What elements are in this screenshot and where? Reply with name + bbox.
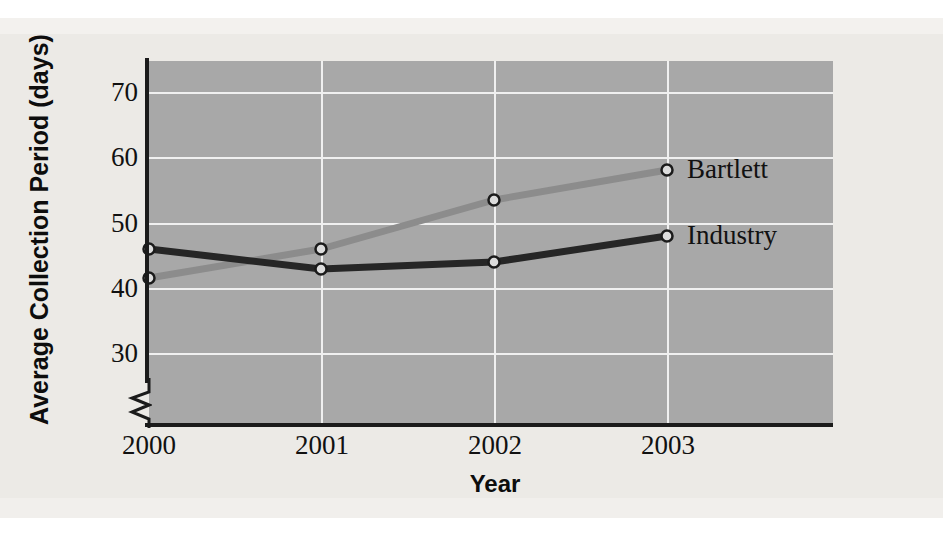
axis-break-icon (126, 378, 152, 428)
x-axis-line (145, 423, 833, 427)
x-tick-label-2000: 2000 (94, 432, 204, 459)
y-tick-label-40: 40 (111, 275, 138, 302)
bartlett-line (149, 170, 667, 278)
y-tick-label-60: 60 (111, 144, 138, 171)
y-tick-label-30: 30 (111, 340, 138, 367)
plot-area: Bartlett Industry (149, 61, 833, 425)
chart-figure: Average Collection Period (days) 70 60 5… (0, 0, 943, 555)
paper-top-edge (0, 18, 943, 34)
paper-bottom-edge (0, 498, 943, 518)
series-label-industry: Industry (687, 222, 777, 249)
series-label-bartlett: Bartlett (687, 156, 768, 183)
y-tick-label-70: 70 (111, 79, 138, 106)
y-axis-line (145, 58, 149, 383)
x-axis-title: Year (440, 472, 550, 496)
y-tick-label-50: 50 (111, 210, 138, 237)
x-tick-label-2002: 2002 (440, 432, 550, 459)
y-axis-title: Average Collection Period (days) (25, 15, 54, 445)
y-tick-label-group: 70 60 50 40 30 (60, 0, 138, 440)
x-tick-label-2001: 2001 (267, 432, 377, 459)
x-tick-label-2003: 2003 (613, 432, 723, 459)
